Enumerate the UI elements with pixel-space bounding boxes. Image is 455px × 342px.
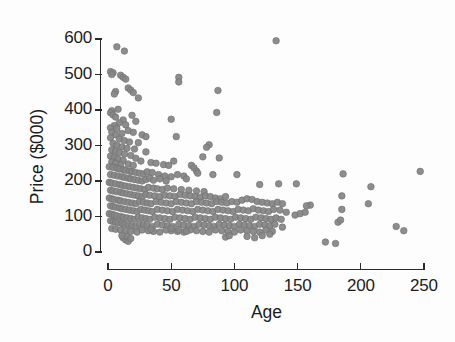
y-tick-300 (95, 145, 102, 146)
y-tick-0 (95, 251, 102, 252)
y-tick-label-600: 600 (48, 28, 92, 48)
data-point (175, 79, 182, 86)
data-point (302, 209, 309, 216)
data-point (150, 177, 157, 184)
y-tick-label-400: 400 (48, 99, 92, 119)
data-point (130, 89, 137, 96)
data-point (108, 71, 115, 78)
data-point (122, 76, 129, 83)
data-point (194, 170, 201, 177)
data-point (170, 158, 177, 165)
data-point (218, 227, 225, 234)
data-point (226, 232, 233, 239)
data-point (115, 106, 122, 113)
data-point (332, 240, 339, 247)
data-point (148, 226, 155, 233)
data-point (168, 225, 175, 232)
x-axis-title: Age (108, 302, 425, 323)
data-point (173, 133, 180, 140)
y-tick-200 (95, 180, 102, 181)
data-point (279, 200, 286, 207)
data-point (250, 228, 257, 235)
data-point (400, 227, 407, 234)
data-point (133, 118, 140, 125)
data-point (131, 146, 138, 153)
data-point (337, 217, 344, 224)
data-point (157, 176, 164, 183)
y-tick-label-0: 0 (48, 241, 92, 261)
data-point (212, 227, 219, 234)
data-point (273, 37, 280, 44)
y-tick-label-300: 300 (48, 135, 92, 155)
y-tick-500 (95, 74, 102, 75)
data-point (222, 193, 229, 200)
data-point (143, 149, 150, 156)
data-point (272, 221, 279, 228)
data-point (368, 183, 375, 190)
x-tick-label-100: 100 (204, 276, 264, 296)
x-axis-line (108, 269, 425, 270)
x-tick-50 (171, 263, 172, 270)
data-point (365, 200, 372, 207)
y-tick-label-200: 200 (48, 170, 92, 190)
data-point (216, 155, 223, 162)
data-point (112, 114, 119, 121)
data-point (157, 229, 164, 236)
x-tick-0 (107, 263, 108, 270)
y-tick-label-100: 100 (48, 206, 92, 226)
data-point (259, 232, 266, 239)
data-point (183, 228, 190, 235)
data-point (210, 171, 217, 178)
x-tick-label-200: 200 (331, 276, 391, 296)
data-point (283, 209, 290, 216)
data-point (203, 144, 210, 151)
data-point (278, 216, 285, 223)
data-point (139, 227, 146, 234)
data-point (175, 227, 182, 234)
data-point (293, 181, 300, 188)
data-point (251, 235, 258, 242)
x-tick-label-150: 150 (268, 276, 328, 296)
data-point (200, 154, 207, 161)
x-tick-label-50: 50 (141, 276, 201, 296)
data-point (170, 186, 177, 193)
y-axis-title: Price ($000) (27, 57, 48, 257)
data-point (270, 206, 277, 213)
data-point (277, 207, 284, 214)
data-point (143, 133, 150, 140)
y-tick-600 (95, 38, 102, 39)
data-point (237, 227, 244, 234)
data-point (183, 176, 190, 183)
data-point (126, 139, 133, 146)
x-tick-label-250: 250 (394, 276, 454, 296)
data-point (213, 109, 220, 116)
data-point (256, 181, 263, 188)
y-tick-100 (95, 216, 102, 217)
data-point (215, 87, 222, 94)
data-point (393, 223, 400, 230)
data-point (200, 228, 207, 235)
scatter-series-homes (106, 37, 424, 246)
data-point (135, 139, 142, 146)
data-point (138, 158, 145, 165)
data-point (275, 181, 282, 188)
data-point (153, 160, 160, 167)
data-point (114, 44, 121, 51)
data-point (193, 227, 200, 234)
data-point (244, 233, 251, 240)
data-point (279, 224, 286, 231)
data-point (322, 239, 329, 246)
data-point (339, 206, 346, 213)
x-tick-label-0: 0 (78, 276, 138, 296)
data-point (174, 171, 181, 178)
data-point (417, 168, 424, 175)
data-point (130, 129, 137, 136)
data-point (121, 151, 128, 158)
x-tick-250 (423, 263, 424, 270)
data-point (234, 171, 241, 178)
x-tick-200 (360, 263, 361, 270)
data-point (303, 203, 310, 210)
y-tick-400 (95, 109, 102, 110)
data-point (163, 178, 170, 185)
y-tick-label-500: 500 (48, 64, 92, 84)
